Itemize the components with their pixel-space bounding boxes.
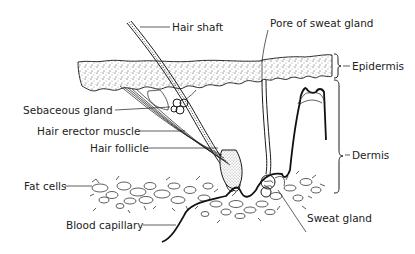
label-hair-erector-muscle: Hair erector muscle [37,125,140,137]
label-sebaceous-gland: Sebaceous gland [23,104,113,116]
label-dermis: Dermis [352,149,389,161]
label-hair-shaft: Hair shaft [172,21,223,33]
epidermis-layer [78,55,332,91]
label-fat-cells: Fat cells [24,180,67,192]
label-epidermis: Epidermis [352,60,404,72]
fat-cells-layer [90,171,325,223]
hair-follicle [220,150,242,191]
epidermis-bracket [334,54,341,78]
blood-capillary [162,88,326,242]
dermis-bracket [334,80,343,193]
skin-diagram: Hair shaft Pore of sweat gland Epidermis… [0,0,415,254]
label-blood-capillary: Blood capillary [66,219,144,231]
label-hair-follicle: Hair follicle [90,142,149,154]
label-sweat-gland: Sweat gland [307,212,372,224]
label-pore-of-sweat-gland: Pore of sweat gland [270,17,373,29]
